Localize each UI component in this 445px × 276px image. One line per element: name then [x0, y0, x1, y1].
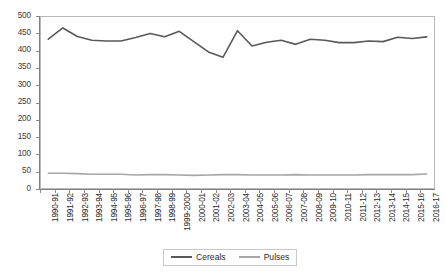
x-tick-label: 2010-11: [344, 193, 353, 221]
chart-legend: Cereals Pulses: [163, 249, 297, 266]
x-tick-label: 2014-15: [402, 193, 411, 222]
x-tick-label: 2013-14: [388, 193, 397, 222]
x-tick-label: 1990-91: [51, 193, 60, 222]
x-tick-label: 1993-94: [95, 193, 104, 222]
x-tick-label: 2001-02: [212, 193, 221, 222]
y-tick-label: 150: [5, 133, 31, 141]
y-tick-label: 400: [5, 46, 31, 54]
y-tick-label: 350: [5, 63, 31, 71]
legend-label-cereals: Cereals: [196, 252, 226, 262]
series-line-pulses: [48, 173, 426, 175]
line-chart: 500450400350300250200150100500 1990-9119…: [0, 0, 445, 276]
legend-label-pulses: Pulses: [264, 252, 290, 262]
x-tick-label: 1998-99: [168, 193, 177, 222]
y-tick-label: 0: [5, 185, 31, 193]
x-tick-label: 2006-07: [285, 193, 294, 222]
x-tick-label: 2005-06: [271, 193, 280, 222]
y-tick-label: 50: [5, 167, 31, 175]
plot-area: [40, 16, 435, 189]
y-tick-label: 450: [5, 29, 31, 37]
series-line-cereals: [48, 28, 426, 57]
legend-swatch-pulses-icon: [239, 256, 260, 258]
legend-item-cereals[interactable]: Cereals: [171, 252, 226, 262]
x-tick-label: 2000-01: [198, 193, 207, 222]
x-tick-label: 1996-97: [139, 193, 148, 222]
x-tick-label: 2012-13: [373, 193, 382, 222]
x-tick-label: 1997-98: [154, 193, 163, 222]
x-tick-label: 2011-12: [359, 193, 368, 221]
plot-series-svg: [41, 17, 434, 188]
legend-swatch-cereals-icon: [171, 256, 192, 258]
x-tick-label: 1992-93: [81, 193, 90, 222]
x-tick-label: 1999-2000: [183, 193, 192, 231]
x-axis-labels: 1990-911991-921992-931993-941994-951995-…: [0, 193, 445, 253]
x-tick-label: 2008-09: [315, 193, 324, 222]
y-tick-label: 500: [5, 12, 31, 20]
x-tick-label: 2003-04: [242, 193, 251, 222]
x-tick-label: 1995-96: [124, 193, 133, 222]
x-tick-label: 2016-17: [432, 193, 441, 222]
y-tick-label: 200: [5, 115, 31, 123]
y-tick-label: 100: [5, 150, 31, 158]
x-tick-label: 2007-08: [300, 193, 309, 222]
legend-item-pulses[interactable]: Pulses: [239, 252, 290, 262]
x-tick-label: 2002-03: [227, 193, 236, 222]
x-tick-label: 1991-92: [66, 193, 75, 222]
y-tick-label: 250: [5, 98, 31, 106]
x-tick-label: 2015-16: [417, 193, 426, 222]
x-tick-label: 2004-05: [256, 193, 265, 222]
x-tick-label: 2009-10: [329, 193, 338, 222]
y-tick-label: 300: [5, 81, 31, 89]
x-tick-label: 1994-95: [110, 193, 119, 222]
